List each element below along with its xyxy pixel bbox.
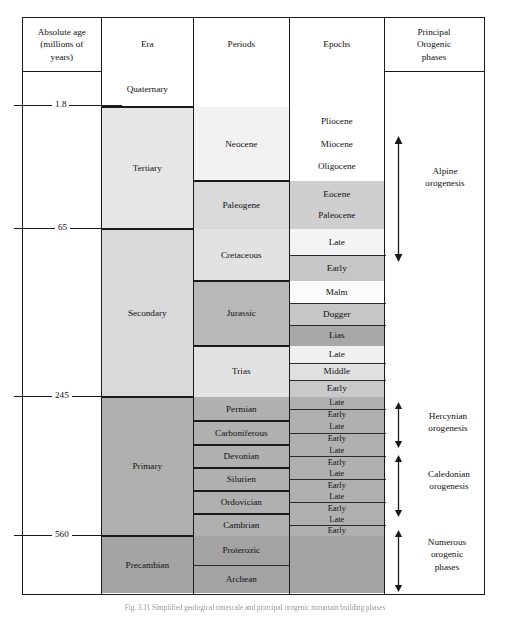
epoch-dogger-label: Dogger — [323, 308, 351, 320]
period-rule-jurassic-trias — [194, 345, 290, 346]
epoch-trias-middle-label: Middle — [324, 365, 351, 377]
period-trias: Trias — [194, 346, 289, 397]
epoch-lias-label: Lias — [329, 329, 345, 341]
era-secondary-label: Secondary — [128, 307, 167, 319]
epoch-trias-late-label: Late — [329, 348, 345, 360]
header-orogenic-line-3: phases — [422, 51, 447, 63]
period-cambrian: Cambrian — [194, 514, 289, 536]
double-headed-arrow-icon — [393, 455, 404, 517]
epoch-trias-late: Late — [290, 346, 384, 363]
period-permian-label: Permian — [226, 403, 257, 415]
double-headed-arrow-icon — [393, 136, 404, 262]
epoch-carboniferous-late: Late — [290, 421, 384, 433]
period-cambrian-label: Cambrian — [223, 519, 259, 531]
epoch-cretaceous-late: Late — [290, 229, 384, 255]
period-proterozic-label: Proterozic — [222, 544, 260, 556]
era-primary: Primary — [102, 397, 193, 536]
epoch-cambrian-early: Early — [290, 525, 384, 536]
epoch-paleocene: Paleocene — [318, 209, 355, 221]
epoch-silurien-early: Early — [290, 480, 384, 492]
period-carboniferous-label: Carboniferous — [215, 427, 268, 439]
period-ordovician: Ordovician — [194, 491, 289, 514]
epoch-cretaceous-early-label: Early — [327, 262, 347, 274]
numerous-orogenic-phases-arrow — [393, 530, 404, 592]
epoch-cretaceous-late-label: Late — [329, 236, 345, 248]
epoch-trias-early: Early — [290, 380, 384, 397]
epoch-permian-late: Late — [290, 397, 384, 409]
epoch-devonian-late-label: Late — [329, 445, 344, 456]
era-tertiary-label: Tertiary — [133, 162, 162, 174]
period-rule-cretaceous-jurassic — [194, 280, 290, 281]
header-absolute-age-line-2: (millions of — [40, 38, 83, 50]
epoch-ordovician-late-label: Late — [329, 491, 344, 502]
epoch-cretaceous-early: Early — [290, 255, 384, 281]
numerous-orogenic-phases-label: Numerous orogenic phases — [409, 536, 485, 573]
epoch-devonian-early-label: Early — [328, 457, 346, 468]
epoch-permian-late-label: Late — [329, 397, 344, 408]
caledonian-orogenesis-arrow — [393, 455, 404, 517]
hercynian-orogenesis-arrow — [393, 402, 404, 448]
epoch-dogger: Dogger — [290, 303, 384, 325]
era-rule-quaternary-tertiary — [102, 106, 194, 107]
epoch-pliocene: Pliocene — [321, 115, 353, 127]
epoch-ordovician-early-label: Early — [328, 503, 346, 514]
period-neocene-label: Neocene — [225, 138, 257, 150]
figure-canvas: Absolute age (millions of years) Era Per… — [0, 0, 508, 622]
epoch-rule-dogger-lias — [290, 325, 386, 326]
period-devonian: Devonian — [194, 445, 289, 468]
epoch-rule-permian-late-early — [290, 409, 386, 410]
numerous-line-3: phases — [435, 562, 460, 572]
age-tick-label-65: 65 — [55, 223, 70, 232]
figure-caption: Fig. 3.11 Simplified geological timescal… — [60, 604, 450, 620]
epoch-carboniferous-early: Early — [290, 433, 384, 445]
epoch-malm: Malm — [290, 281, 384, 303]
era-tertiary: Tertiary — [102, 107, 193, 229]
period-cretaceous-label: Cretaceous — [221, 249, 262, 261]
epoch-permian-early-label: Early — [328, 409, 346, 420]
header-absolute-age-line-3: years) — [51, 51, 73, 63]
header-era-label: Era — [141, 38, 154, 50]
period-carboniferous: Carboniferous — [194, 421, 289, 445]
epoch-cambrian-early-label: Early — [328, 525, 346, 536]
caledonian-line-2: orogenesis — [429, 481, 468, 491]
period-rule-permian-carboniferous — [194, 420, 290, 421]
period-silurien-label: Silurien — [227, 473, 256, 485]
hercynian-line-2: orogenesis — [428, 423, 467, 433]
double-headed-arrow-icon — [393, 530, 404, 592]
header-epochs: Epochs — [290, 18, 384, 71]
period-rule-neocene-paleogene — [194, 180, 290, 181]
epoch-blank-quaternary — [290, 71, 384, 107]
epoch-ordovician-late: Late — [290, 491, 384, 503]
epoch-devonian-early: Early — [290, 457, 384, 469]
epoch-rule-carb-late-early — [290, 433, 386, 434]
epoch-carboniferous-late-label: Late — [329, 421, 344, 432]
epoch-group-neocene: Pliocene Miocene Oligocene — [290, 107, 384, 181]
numerous-line-1: Numerous — [428, 537, 466, 547]
epoch-malm-label: Malm — [326, 286, 348, 298]
epoch-rule-camb-late-early — [290, 525, 386, 526]
age-tick-label-245: 245 — [52, 391, 72, 400]
header-orogenic-line-1: Principal — [417, 26, 450, 38]
age-tick-label-1-8: 1.8 — [52, 100, 69, 109]
era-precambian-label: Precambian — [126, 559, 169, 571]
period-rule-carboniferous-devonian — [194, 444, 290, 445]
era-quaternary: Quaternary — [102, 71, 193, 107]
period-archean: Archean — [194, 565, 289, 593]
era-secondary: Secondary — [102, 229, 193, 397]
epoch-permian-early: Early — [290, 409, 384, 421]
header-orogenic-line-2: Orogenic — [417, 38, 451, 50]
epoch-ordovician-early: Early — [290, 503, 384, 515]
epoch-carboniferous-early-label: Early — [328, 433, 346, 444]
period-rule-ordovician-cambrian — [194, 513, 290, 514]
epoch-silurien-late-label: Late — [329, 468, 344, 479]
epoch-miocene: Miocene — [321, 138, 353, 150]
alpine-line-1: Alpine — [432, 166, 457, 176]
period-jurassic-label: Jurassic — [227, 307, 256, 319]
hercynian-orogenesis-label: Hercynian orogenesis — [409, 410, 487, 435]
period-rule-devonian-silurien — [194, 467, 290, 468]
epoch-silurien-early-label: Early — [328, 480, 346, 491]
period-jurassic: Jurassic — [194, 281, 289, 346]
epoch-oligocene: Oligocene — [318, 160, 356, 172]
epoch-rule-sil-late-early — [290, 479, 386, 480]
period-silurien: Silurien — [194, 468, 289, 491]
